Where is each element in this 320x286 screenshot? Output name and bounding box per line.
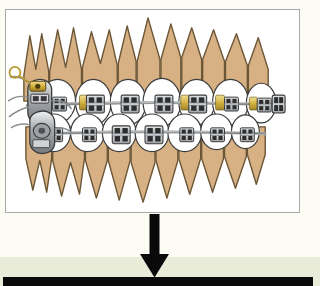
down-arrow-icon (139, 214, 170, 278)
illustration-panel (5, 9, 300, 213)
terminal-tube-right (272, 95, 285, 113)
bottom-bar (3, 277, 313, 286)
orthodontic-braces-illustration (6, 10, 299, 212)
slide-canvas (0, 0, 320, 286)
down-arrow (139, 214, 170, 278)
